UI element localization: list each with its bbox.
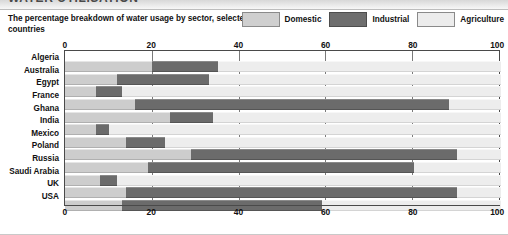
legend-item-industrial: Industrial (329, 12, 409, 27)
category-label-egypt: Egypt (0, 77, 62, 88)
bar-row (65, 74, 501, 85)
category-label-russia: Russia (0, 153, 62, 164)
x-tick-label: 20 (147, 40, 156, 50)
chart-area: 020406080100 020406080100 (64, 42, 500, 214)
x-tick-label: 20 (147, 207, 156, 217)
x-tick-label: 60 (321, 40, 330, 50)
bar-segment-agriculture (218, 61, 501, 72)
bar-segment-industrial (148, 162, 414, 173)
bar-segment-industrial (117, 74, 209, 85)
legend-swatch-icon-industrial (329, 12, 367, 27)
category-label-saudi-arabia: Saudi Arabia (0, 166, 62, 177)
bar-segment-domestic (65, 175, 100, 186)
bar-segment-domestic (65, 86, 96, 97)
bar-segment-agriculture (209, 74, 501, 85)
legend-label: Domestic (285, 15, 322, 24)
x-tick-label: 80 (408, 40, 417, 50)
x-tick-label: 80 (408, 207, 417, 217)
axis-line-bottom (64, 205, 500, 207)
bar-row (65, 175, 501, 186)
bar-row (65, 137, 501, 148)
bar-row (65, 61, 501, 72)
bar-segment-agriculture (213, 112, 501, 123)
title-divider (0, 9, 508, 10)
bar-segment-industrial (100, 175, 117, 186)
bar-segment-agriculture (449, 99, 501, 110)
category-label-france: France (0, 90, 62, 101)
bar-row (65, 112, 501, 123)
bar-segment-industrial (96, 124, 109, 135)
category-label-algeria: Algeria (0, 52, 62, 63)
axis-top: 020406080100 (64, 40, 500, 50)
bar-segment-agriculture (122, 86, 501, 97)
x-tick-label: 100 (490, 207, 504, 217)
category-label-mexico: Mexico (0, 128, 62, 139)
bar-segment-domestic (65, 187, 126, 198)
title-band: WATER UTILISATION (0, 0, 508, 9)
bar-segment-domestic (65, 61, 152, 72)
legend-label: Agriculture (460, 15, 504, 24)
category-axis-labels: AlgeriaAustraliaEgyptFranceGhanaIndiaMex… (0, 52, 62, 204)
x-tick-label: 60 (321, 207, 330, 217)
bar-segment-agriculture (117, 175, 501, 186)
category-label-india: India (0, 115, 62, 126)
category-label-poland: Poland (0, 140, 62, 151)
bar-row (65, 149, 501, 160)
bar-segment-domestic (65, 149, 191, 160)
legend-swatch-icon-domestic (242, 12, 280, 27)
bar-segment-agriculture (109, 124, 501, 135)
bar-row (65, 162, 501, 173)
x-tick-label: 0 (63, 40, 68, 50)
category-label-australia: Australia (0, 65, 62, 76)
bar-row (65, 86, 501, 97)
bar-segment-industrial (152, 61, 217, 72)
legend-label: Industrial (372, 15, 409, 24)
bar-row (65, 124, 501, 135)
bar-row (65, 99, 501, 110)
bar-segment-domestic (65, 74, 117, 85)
bar-rows (65, 61, 501, 213)
bar-segment-domestic (65, 137, 126, 148)
chart-legend: DomesticIndustrialAgriculture (234, 12, 504, 27)
x-tick-label: 40 (234, 40, 243, 50)
bar-segment-agriculture (457, 187, 501, 198)
bar-segment-industrial (126, 137, 165, 148)
bar-segment-industrial (191, 149, 457, 160)
chart-page: WATER UTILISATION The percentage breakdo… (0, 0, 508, 235)
category-label-ghana: Ghana (0, 103, 62, 114)
x-tick-label: 100 (490, 40, 504, 50)
bar-segment-industrial (126, 187, 457, 198)
bar-segment-industrial (170, 112, 214, 123)
bar-segment-agriculture (414, 162, 501, 173)
legend-swatch-icon-agriculture (417, 12, 455, 27)
category-label-usa: USA (0, 191, 62, 202)
bar-segment-agriculture (165, 137, 501, 148)
bar-segment-industrial (135, 99, 449, 110)
legend-item-agriculture: Agriculture (417, 12, 504, 27)
x-tick-label: 40 (234, 207, 243, 217)
legend-item-domestic: Domestic (242, 12, 322, 27)
bar-segment-domestic (65, 99, 135, 110)
bar-segment-domestic (65, 162, 148, 173)
bar-segment-domestic (65, 112, 170, 123)
bar-row (65, 187, 501, 198)
page-title: WATER UTILISATION (8, 0, 138, 5)
x-tick-label: 0 (63, 207, 68, 217)
bar-segment-industrial (96, 86, 122, 97)
bottom-divider (0, 234, 508, 235)
category-label-uk: UK (0, 178, 62, 189)
plot-area (64, 51, 500, 205)
axis-bottom: 020406080100 (64, 207, 500, 217)
bar-segment-domestic (65, 124, 96, 135)
bar-segment-agriculture (457, 149, 501, 160)
